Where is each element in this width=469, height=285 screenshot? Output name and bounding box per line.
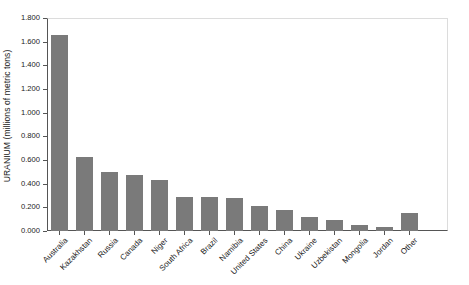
x-axis-category-label: Russia [96, 236, 120, 260]
x-axis-tick-mark [109, 231, 110, 235]
x-axis-tick-mark [134, 231, 135, 235]
y-axis-tick-label: 0.400 [21, 179, 40, 189]
bar-slot [323, 18, 348, 231]
x-axis-tick-mark [259, 231, 260, 235]
x-axis-tick-mark [384, 231, 385, 235]
bar-slot [148, 18, 173, 231]
y-axis-tick-label: 0.800 [21, 131, 40, 141]
bar[interactable] [176, 197, 193, 231]
x-axis-label-slot: Kazakhstan [73, 236, 98, 285]
x-axis-tick-mark [409, 231, 410, 235]
bar[interactable] [201, 197, 218, 231]
x-axis-category-label: Jordan [371, 236, 395, 260]
bar-slot [298, 18, 323, 231]
bar-slot [123, 18, 148, 231]
x-axis-tick-mark [84, 231, 85, 235]
bars-layer [48, 18, 448, 231]
x-axis-tick-mark [334, 231, 335, 235]
x-axis-label-slot: Canada [123, 236, 148, 285]
x-axis-tick-mark [184, 231, 185, 235]
x-axis-tick-mark [209, 231, 210, 235]
x-axis-label-slot: Other [398, 236, 423, 285]
bar[interactable] [126, 175, 143, 231]
bar-slot [373, 18, 398, 231]
x-axis-label-slot: China [273, 236, 298, 285]
x-axis-label-slot: Russia [98, 236, 123, 285]
y-axis-tick-mark [43, 231, 47, 232]
bar-slot [173, 18, 198, 231]
x-axis-category-label: Brazil [199, 236, 220, 257]
x-axis-category-label: Other [399, 236, 420, 257]
y-axis-tick-label: 1.000 [21, 108, 40, 118]
bar[interactable] [301, 217, 318, 231]
bar[interactable] [226, 198, 243, 231]
x-axis-label-slot: United States [248, 236, 273, 285]
bar-slot [248, 18, 273, 231]
bar[interactable] [326, 220, 343, 231]
bar-slot [348, 18, 373, 231]
x-axis-tick-mark [359, 231, 360, 235]
bar-slot [273, 18, 298, 231]
x-axis-label-slot: Brazil [198, 236, 223, 285]
bar[interactable] [76, 157, 93, 231]
x-axis-tick-mark [309, 231, 310, 235]
bar[interactable] [51, 35, 68, 231]
bar[interactable] [251, 206, 268, 231]
y-axis-tick-label: 1.200 [21, 84, 40, 94]
y-axis-tick-label: 1.600 [21, 37, 40, 47]
x-axis-tick-mark [234, 231, 235, 235]
x-axis-category-label: Niger [149, 236, 169, 256]
y-axis-tick-label: 0.200 [21, 202, 40, 212]
y-axis-tick-label: 0.000 [21, 226, 40, 236]
bar[interactable] [276, 210, 293, 231]
bar[interactable] [401, 213, 418, 231]
x-axis-labels: AustraliaKazakhstanRussiaCanadaNigerSout… [48, 236, 448, 285]
x-axis-tick-mark [59, 231, 60, 235]
x-axis-category-label: China [273, 236, 294, 257]
x-axis-label-slot: Mongolia [348, 236, 373, 285]
x-axis-tick-mark [284, 231, 285, 235]
bar-slot [223, 18, 248, 231]
y-axis-tick-label: 1.400 [21, 60, 40, 70]
x-axis-tick-mark [159, 231, 160, 235]
y-axis-tick-label: 0.600 [21, 155, 40, 165]
y-axis-ticks: 1.8001.6001.4001.2001.0000.8000.6000.400… [0, 18, 47, 231]
bar-slot [98, 18, 123, 231]
bar[interactable] [101, 172, 118, 231]
bar-slot [73, 18, 98, 231]
bar[interactable] [151, 180, 168, 231]
uranium-reserves-bar-chart: URANIUM (millions of metric tons) 1.8001… [0, 0, 469, 285]
bar-slot [198, 18, 223, 231]
y-axis-tick-label: 1.800 [21, 13, 40, 23]
bar-slot [398, 18, 423, 231]
x-axis-label-slot: South Africa [173, 236, 198, 285]
x-axis-category-label: Canada [118, 236, 144, 262]
x-axis-label-slot: Jordan [373, 236, 398, 285]
bar-slot [48, 18, 73, 231]
